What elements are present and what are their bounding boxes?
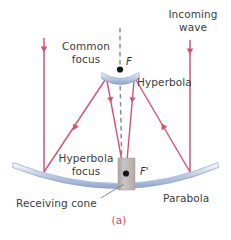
incoming-ray-left (41, 38, 48, 172)
common-focus-point (117, 66, 123, 72)
label-focus-F: F (126, 56, 138, 69)
incoming-ray-right (187, 40, 194, 172)
label-receiving-cone: Receiving cone (16, 197, 106, 210)
label-common-focus: Common focus (58, 40, 114, 65)
label-hyperbola-focus: Hyperbola focus (53, 152, 119, 177)
figure-caption: (a) (104, 214, 134, 227)
label-focus-F-prime: F' (140, 166, 156, 179)
label-hyperbola: Hyperbola (137, 76, 195, 89)
label-parabola: Parabola (163, 192, 223, 205)
label-incoming-wave: Incoming wave (158, 8, 228, 33)
hyperbola-focus-point (123, 170, 129, 176)
reflected-ray-right-to-subreflector (136, 80, 190, 172)
physics-diagram-cassegrain-antenna: Incoming wave Common focus Hyperbola Hyp… (0, 0, 231, 240)
